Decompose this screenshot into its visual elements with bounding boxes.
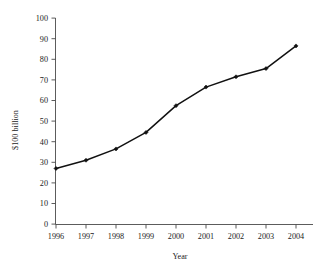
x-tick-label: 2000	[168, 232, 184, 241]
y-tick-label: 80	[40, 55, 48, 64]
y-tick-label: 90	[40, 35, 48, 44]
x-tick-label: 2003	[258, 232, 274, 241]
chart-background	[0, 0, 324, 271]
y-tick-label: 40	[40, 138, 48, 147]
line-chart: 100 90 80 70 60 50 40 30 20 10 0 1996	[0, 0, 324, 271]
y-tick-label: 50	[40, 117, 48, 126]
y-tick-label: 10	[40, 199, 48, 208]
x-tick-label: 1998	[108, 232, 124, 241]
y-tick-label: 70	[40, 76, 48, 85]
chart-container: 100 90 80 70 60 50 40 30 20 10 0 1996	[0, 0, 324, 271]
x-tick-label: 1999	[138, 232, 154, 241]
y-tick-label: 0	[44, 220, 48, 229]
x-axis-title: Year	[172, 252, 187, 261]
y-tick-label: 100	[36, 14, 48, 23]
y-tick-label: 20	[40, 179, 48, 188]
x-tick-label: 2001	[198, 232, 214, 241]
x-tick-label: 1997	[78, 232, 94, 241]
x-axis-tick-labels: 1996 1997 1998 1999 2000 2001 2002 2003 …	[48, 232, 304, 241]
x-tick-label: 1996	[48, 232, 64, 241]
y-axis-title: $100 billion	[11, 110, 20, 150]
x-tick-label: 2004	[288, 232, 304, 241]
y-tick-label: 30	[40, 158, 48, 167]
y-tick-label: 60	[40, 96, 48, 105]
x-tick-label: 2002	[228, 232, 244, 241]
